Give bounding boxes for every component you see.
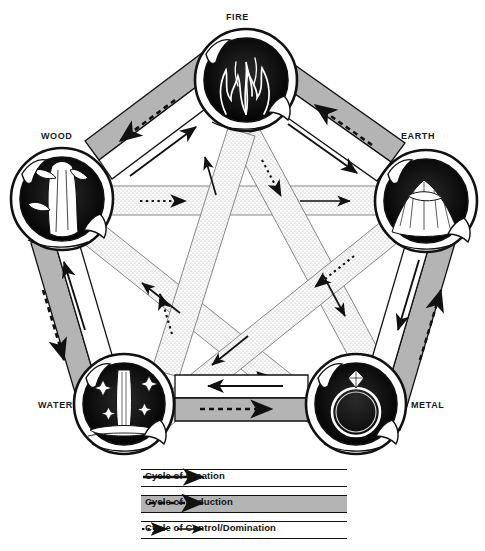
- node-label-metal: METAL: [411, 400, 444, 410]
- node-wood[interactable]: [11, 148, 113, 250]
- legend-arrow-reduction: [141, 494, 219, 512]
- reduction-band-water-metal: [175, 398, 308, 421]
- legend-row-control[interactable]: Cycle of Control/Domination: [141, 518, 347, 540]
- node-label-water: WATER: [38, 400, 73, 410]
- five-element-diagram: FIRE WOOD EARTH WATER METAL Cycle of Cre…: [0, 0, 485, 551]
- legend-arrow-control: [141, 520, 209, 538]
- node-metal[interactable]: [306, 354, 406, 454]
- legend: Cycle of Creation Cycle of Reduction Cyc…: [141, 466, 347, 544]
- node-label-earth: EARTH: [401, 131, 435, 141]
- legend-row-reduction[interactable]: Cycle of Reduction: [141, 492, 347, 514]
- node-label-wood: WOOD: [41, 131, 72, 141]
- legend-arrow-creation: [141, 468, 219, 486]
- node-label-fire: FIRE: [226, 12, 249, 22]
- legend-row-creation[interactable]: Cycle of Creation: [141, 466, 347, 488]
- node-earth[interactable]: [375, 150, 477, 252]
- node-fire[interactable]: [195, 29, 297, 131]
- node-water[interactable]: [74, 354, 174, 454]
